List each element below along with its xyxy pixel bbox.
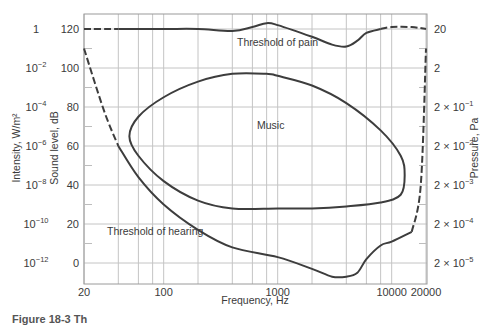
x-axis-label: Frequency, Hz — [221, 294, 289, 306]
y-tick-label: 60 — [67, 140, 79, 152]
y-tick-label: 100 — [61, 62, 79, 74]
x-tick-label: 100 — [155, 286, 173, 298]
pressure-tick-label: 20 — [434, 23, 446, 35]
intensity-tick-label: 10−6 — [26, 138, 47, 152]
y-tick-label: 0 — [73, 257, 79, 269]
intensity-tick-label: 10−8 — [26, 177, 47, 191]
curves — [84, 23, 426, 277]
intensity-tick-label: 10−10 — [24, 216, 49, 230]
y-axis-label-pressure: Pressure, Pa — [468, 117, 480, 178]
y-tick-label: 80 — [67, 101, 79, 113]
figure-caption: Figure 18-3 Th — [12, 313, 87, 325]
threshold-of-pain-label: Threshold of pain — [237, 36, 318, 48]
axis-ticks: 020406080100120110−210−410−610−810−1010−… — [24, 23, 474, 298]
music-label: Music — [257, 119, 284, 131]
x-tick-label: 10000 — [376, 286, 407, 298]
threshold-of-hearing-curve — [84, 49, 118, 147]
pressure-tick-label: 2 — [434, 62, 440, 74]
grid — [84, 14, 427, 284]
pressure-tick-label: 2 × 10−1 — [434, 99, 473, 113]
threshold-of-hearing-curve — [118, 146, 411, 277]
pressure-tick-label: 2 × 10−4 — [434, 216, 473, 230]
y-axis-label-sound-level: Sound level, dB — [48, 111, 60, 185]
x-tick-label: 20000 — [411, 286, 442, 298]
intensity-tick-label: 10−12 — [24, 255, 49, 269]
x-tick-label: 20 — [78, 286, 90, 298]
y-tick-label: 20 — [67, 218, 79, 230]
y-tick-label: 40 — [67, 179, 79, 191]
intensity-tick-label: 1 — [33, 23, 39, 35]
threshold-of-hearing-label: Threshold of hearing — [107, 225, 203, 237]
plot-frame — [84, 14, 427, 284]
intensity-tick-label: 10−2 — [26, 60, 47, 74]
intensity-tick-label: 10−4 — [26, 99, 47, 113]
y-axis-label-intensity: Intensity, W/m² — [10, 113, 22, 183]
y-tick-label: 120 — [61, 23, 79, 35]
pressure-tick-label: 2 × 10−5 — [434, 255, 473, 269]
